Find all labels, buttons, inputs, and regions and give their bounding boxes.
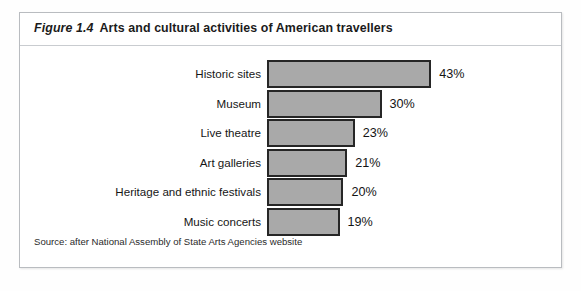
bar <box>267 178 343 206</box>
bar-category-label: Art galleries <box>0 149 267 177</box>
bar <box>267 119 355 147</box>
bar <box>267 208 340 236</box>
bar <box>267 60 431 88</box>
bar-value-label: 23% <box>355 119 388 147</box>
bar-row: Museum30% <box>20 90 561 118</box>
bar-value-label: 43% <box>431 60 464 88</box>
bar-row: Music concerts19% <box>20 208 561 236</box>
bar-row: Live theatre23% <box>20 119 561 147</box>
bar-category-label: Live theatre <box>0 119 267 147</box>
bar-row: Art galleries21% <box>20 149 561 177</box>
bar-category-label: Historic sites <box>0 60 267 88</box>
figure-box: Figure 1.4Arts and cultural activities o… <box>19 12 562 268</box>
bar-category-label: Heritage and ethnic festivals <box>0 178 267 206</box>
page-canvas: Figure 1.4Arts and cultural activities o… <box>0 0 581 291</box>
figure-caption: Figure 1.4Arts and cultural activities o… <box>20 13 561 46</box>
figure-number: Figure 1.4 <box>34 21 94 35</box>
bar-value-label: 21% <box>347 149 380 177</box>
bar <box>267 90 382 118</box>
bar-value-label: 30% <box>382 90 415 118</box>
bar-row: Heritage and ethnic festivals20% <box>20 178 561 206</box>
bar-category-label: Music concerts <box>0 208 267 236</box>
bar-row: Historic sites43% <box>20 60 561 88</box>
bar-value-label: 20% <box>343 178 376 206</box>
figure-title: Arts and cultural activities of American… <box>100 21 393 35</box>
figure-caption-text: Figure 1.4Arts and cultural activities o… <box>34 21 393 35</box>
bar-category-label: Museum <box>0 90 267 118</box>
bar-value-label: 19% <box>340 208 373 236</box>
bar-chart: Historic sites43%Museum30%Live theatre23… <box>20 46 561 228</box>
source-note: Source: after National Assembly of State… <box>34 236 302 247</box>
bar <box>267 149 347 177</box>
